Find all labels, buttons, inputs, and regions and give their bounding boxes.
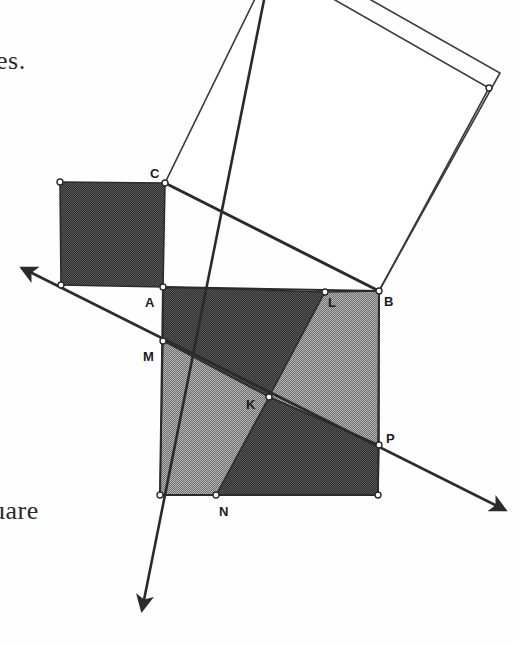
- point-label-B: B: [384, 294, 393, 309]
- caption-fragment-bottom: uare: [0, 496, 39, 526]
- vertex-marker: [375, 492, 381, 498]
- geometry-canvas: CABLMKNP: [0, 0, 519, 646]
- point-label-K: K: [246, 397, 256, 412]
- point-label-A: A: [145, 295, 155, 310]
- figure-root: CABLMKNP es. uare: [0, 0, 519, 646]
- vertex-marker: [57, 179, 63, 185]
- point-label-L: L: [328, 295, 336, 310]
- vertex-marker: [157, 492, 163, 498]
- point-label-C: C: [150, 166, 160, 181]
- point-label-P: P: [386, 431, 395, 446]
- vertex-marker: [266, 394, 272, 400]
- point-label-N: N: [219, 504, 228, 519]
- vertex-marker: [376, 442, 382, 448]
- vertex-marker: [58, 282, 64, 288]
- vertex-marker: [213, 492, 219, 498]
- square-on-vertical-leg: [60, 182, 165, 287]
- vertex-marker: [376, 288, 382, 294]
- vertex-marker: [160, 284, 166, 290]
- vertex-marker: [160, 338, 166, 344]
- vertex-marker: [486, 85, 492, 91]
- vertex-marker: [162, 180, 168, 186]
- caption-fragment-top: es.: [0, 46, 26, 76]
- point-label-M: M: [143, 349, 154, 364]
